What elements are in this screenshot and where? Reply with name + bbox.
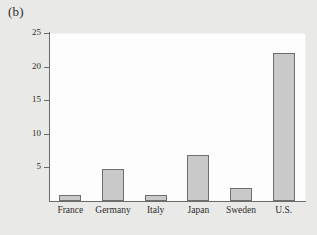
x-axis-category-label: U.S. (262, 205, 305, 215)
x-axis-category-label: France (49, 205, 92, 215)
x-axis-category-label: Sweden (220, 205, 263, 215)
x-axis-category-label: Japan (177, 205, 220, 215)
bar (273, 53, 295, 201)
figure-panel-b: (b) 510152025 FranceGermanyItalyJapanSwe… (0, 0, 317, 235)
y-axis-tick-label-text: 5 (18, 162, 41, 171)
y-axis-tick-label-text: 10 (18, 129, 41, 138)
plot-frame-right (305, 33, 306, 201)
x-axis-category-label: Italy (134, 205, 177, 215)
y-axis-tick-label-text: 20 (18, 62, 41, 71)
panel-label: (b) (8, 4, 24, 20)
y-axis-tick-label-text: 25 (18, 28, 41, 37)
y-axis-tick-label: 5 (18, 162, 41, 172)
x-axis-category-label: Germany (92, 205, 135, 215)
y-axis-tick-label: 15 (18, 95, 41, 105)
bar (102, 169, 124, 201)
bar (145, 195, 167, 201)
bars-group (49, 33, 305, 201)
y-axis-tick-label: 25 (18, 28, 41, 38)
y-axis-tick-label-text: 15 (18, 95, 41, 104)
bar (59, 195, 81, 201)
y-axis-tick-label: 20 (18, 62, 41, 72)
x-axis-line (49, 201, 306, 202)
y-axis-tick-label: 10 (18, 129, 41, 139)
bar (187, 155, 209, 201)
bar (230, 188, 252, 201)
